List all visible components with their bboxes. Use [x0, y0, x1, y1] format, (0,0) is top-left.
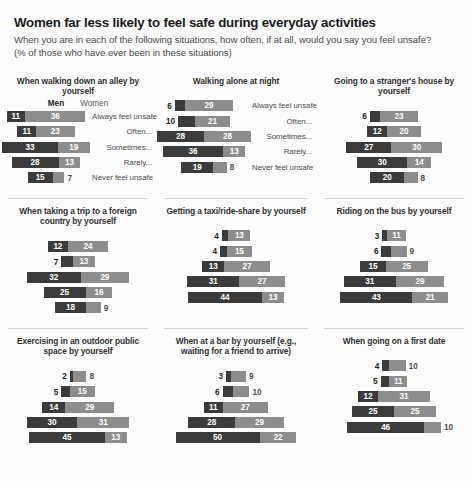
bar-wrapper: 610 [156, 386, 316, 397]
bar-wrapper: 311 [316, 230, 472, 241]
bar-segment-men: 12 [358, 391, 378, 402]
stacked-bar: 3127 [187, 276, 284, 287]
bar-segment-men: 28 [12, 157, 59, 168]
bar-segment-women: 24 [68, 241, 108, 252]
bar-segment-men: 28 [157, 131, 204, 142]
stacked-bar: 1525 [360, 261, 427, 272]
bar-segment-women: 15 [227, 246, 252, 257]
bar-row: 515 [0, 386, 156, 397]
bar-wrapper: 1525 [316, 261, 472, 272]
bar-row: 413 [156, 230, 316, 241]
chart-panel: Riding on the bus by yourself31169152531… [316, 198, 472, 328]
bar-segment-men: 4 [220, 246, 227, 257]
bar-value-men: 5 [54, 387, 58, 396]
bar-segment-women: 22 [260, 432, 297, 443]
bar-wrapper: 2525 [316, 406, 472, 417]
category-label: Always feel unsafe [252, 100, 312, 111]
category-label: Rarely... [252, 146, 312, 157]
bar-segment-men: 45 [29, 432, 105, 443]
legend-item-women: Women [80, 99, 108, 108]
bar-segment-men: 31 [187, 276, 239, 287]
bar-segment-men: 25 [352, 406, 394, 417]
bar-value-women: 10 [409, 361, 418, 370]
bar-segment-men: 6 [223, 386, 233, 397]
stacked-bar: 2525 [352, 406, 436, 417]
bar-row: 1224 [0, 241, 156, 252]
bar-value-women: 8 [421, 173, 425, 182]
chart-panel: Exercising in an outdoor public space by… [0, 328, 156, 466]
stacked-bar: 1231 [358, 391, 430, 402]
stacked-bar: 3031 [27, 417, 129, 428]
bar-wrapper: 2516 [0, 287, 156, 298]
panel-grid: When walking down an alley by yourselfMe… [0, 68, 472, 466]
legend-spacer [156, 216, 316, 228]
bar-value-men: 6 [374, 247, 378, 256]
bar-row: 511 [316, 376, 472, 387]
bar-segment-women: 25 [394, 406, 436, 417]
bar-segment-men: 13 [202, 261, 224, 272]
bar-row: 4513 [0, 432, 156, 443]
stacked-bar: 1429 [42, 402, 114, 413]
stacked-bar: 415 [220, 246, 252, 257]
legend-spacer [0, 227, 156, 239]
bar-wrapper: 1231 [316, 391, 472, 402]
stacked-bar: 4610 [347, 422, 441, 433]
bar-value-men: 4 [214, 231, 218, 240]
category-label: Often... [252, 116, 312, 127]
stacked-bar: 3319 [2, 142, 89, 153]
panel-title: Walking alone at night [156, 73, 316, 87]
bar-wrapper: 5022 [156, 432, 316, 443]
bar-segment-women: 19 [58, 142, 90, 153]
bar-wrapper: 1224 [0, 241, 156, 252]
chart-panel: Getting a taxi/ride-share by yourself413… [156, 198, 316, 328]
stacked-bar: 311 [382, 230, 406, 241]
bar-segment-men: 19 [181, 162, 213, 173]
bar-value-women: 10 [252, 387, 261, 396]
bar-wrapper: 1127 [156, 402, 316, 413]
panel-title: Exercising in an outdoor public space by… [0, 333, 156, 357]
bar-wrapper: 3129 [316, 276, 472, 287]
bar-segment-women: 27 [223, 402, 268, 413]
bar-value-men: 2 [62, 372, 66, 381]
stacked-bar: 198 [181, 162, 226, 173]
bar-row: 415 [156, 246, 316, 257]
stacked-bar: 189 [55, 302, 100, 313]
bar-row: 311 [316, 230, 472, 241]
bar-wrapper: 515 [0, 386, 156, 397]
bar-row: 1525 [316, 261, 472, 272]
bar-row: 1231 [316, 391, 472, 402]
bar-group: 410511123125254610 [316, 360, 472, 433]
bar-segment-women: 13 [105, 432, 127, 443]
stacked-bar: 629 [175, 100, 234, 111]
bar-segment-men: 12 [367, 126, 387, 137]
bar-segment-women: 23 [380, 111, 419, 122]
bar-segment-men: 44 [188, 292, 262, 303]
bar-segment-men: 14 [42, 402, 66, 413]
bar-row: 1127 [156, 402, 316, 413]
stacked-bar: 2813 [12, 157, 81, 168]
bar-row: 2829 [156, 417, 316, 428]
bar-value-men: 3 [375, 231, 379, 240]
bar-wrapper: 208 [316, 172, 472, 183]
stacked-bar: 3129 [344, 276, 445, 287]
bar-segment-men: 11 [17, 126, 35, 137]
bar-segment-men: 36 [163, 146, 223, 157]
bar-wrapper: 39 [156, 371, 316, 382]
legend: MenWomen [0, 97, 156, 109]
bar-value-men: 10 [166, 117, 175, 126]
bar-row: 3129 [316, 276, 472, 287]
bar-wrapper: 3014 [316, 157, 472, 168]
bar-segment-women: 13 [73, 256, 95, 267]
figure-header: Women far less likely to feel safe durin… [0, 0, 472, 60]
bar-wrapper: 3229 [0, 272, 156, 283]
bar-group: 413415132731274413 [156, 230, 316, 303]
bar-segment-women: 29 [65, 402, 114, 413]
bar-segment-men: 15 [28, 172, 53, 183]
bar-segment-women: 21 [412, 292, 447, 303]
category-label: Never feel unsafe [252, 162, 312, 173]
bar-segment-women: 7 [53, 172, 65, 183]
legend-spacer [316, 97, 472, 109]
bar-segment-men: 4 [382, 360, 389, 371]
bar-group: 1136112333192813157Always feel unsafeOft… [0, 111, 156, 184]
panel-title: When going on a first date [316, 333, 472, 347]
